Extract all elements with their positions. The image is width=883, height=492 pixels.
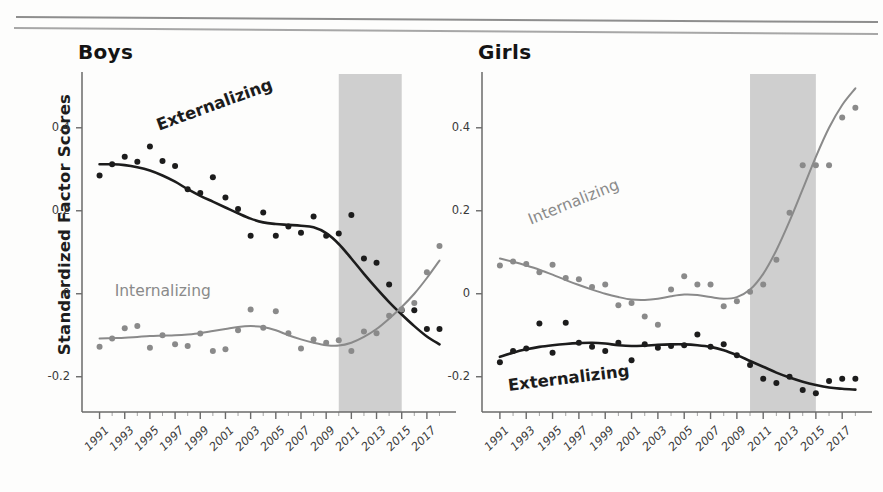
data-point-internalizing	[839, 114, 845, 120]
data-point-internalizing	[668, 287, 674, 293]
data-point-internalizing	[773, 257, 779, 263]
figure-page: Standardized Factor Scores Boys0.40.20-0…	[0, 0, 883, 492]
data-point-internalizing	[563, 275, 569, 281]
data-point-externalizing	[760, 376, 766, 382]
data-point-externalizing	[694, 331, 700, 337]
data-point-externalizing	[523, 346, 529, 352]
data-point-internalizing	[655, 322, 661, 328]
data-point-internalizing	[721, 303, 727, 309]
data-point-internalizing	[642, 314, 648, 320]
shaded-period-band	[750, 74, 816, 412]
data-point-internalizing	[800, 162, 806, 168]
data-point-externalizing	[642, 341, 648, 347]
data-point-internalizing	[813, 162, 819, 168]
data-point-internalizing	[589, 284, 595, 290]
data-point-externalizing	[589, 344, 595, 350]
data-point-externalizing	[655, 345, 661, 351]
data-point-externalizing	[615, 340, 621, 346]
data-point-internalizing	[510, 258, 516, 264]
data-point-internalizing	[787, 210, 793, 216]
data-point-externalizing	[681, 342, 687, 348]
data-point-internalizing	[497, 263, 503, 269]
data-point-internalizing	[629, 300, 635, 306]
data-point-externalizing	[813, 390, 819, 396]
data-point-internalizing	[708, 282, 714, 288]
data-point-externalizing	[576, 340, 582, 346]
data-point-externalizing	[536, 321, 542, 327]
plot-area-girls	[0, 0, 883, 492]
data-point-externalizing	[602, 348, 608, 354]
data-point-externalizing	[721, 341, 727, 347]
data-point-internalizing	[550, 262, 556, 268]
data-point-externalizing	[839, 376, 845, 382]
data-point-externalizing	[734, 352, 740, 358]
data-point-internalizing	[576, 276, 582, 282]
data-point-internalizing	[602, 282, 608, 288]
data-point-externalizing	[629, 357, 635, 363]
data-point-internalizing	[734, 298, 740, 304]
data-point-externalizing	[550, 350, 556, 356]
data-point-internalizing	[747, 289, 753, 295]
data-point-externalizing	[510, 348, 516, 354]
data-point-internalizing	[694, 282, 700, 288]
data-point-internalizing	[523, 261, 529, 267]
data-point-externalizing	[668, 343, 674, 349]
data-point-internalizing	[681, 273, 687, 279]
data-point-externalizing	[708, 344, 714, 350]
data-point-externalizing	[773, 380, 779, 386]
data-point-internalizing	[536, 269, 542, 275]
data-point-externalizing	[800, 387, 806, 393]
data-point-externalizing	[497, 359, 503, 365]
data-point-externalizing	[852, 376, 858, 382]
data-point-externalizing	[787, 374, 793, 380]
data-point-externalizing	[826, 378, 832, 384]
data-point-internalizing	[760, 282, 766, 288]
data-point-internalizing	[826, 162, 832, 168]
data-point-externalizing	[563, 320, 569, 326]
data-point-externalizing	[747, 362, 753, 368]
data-point-internalizing	[852, 105, 858, 111]
data-point-internalizing	[615, 302, 621, 308]
